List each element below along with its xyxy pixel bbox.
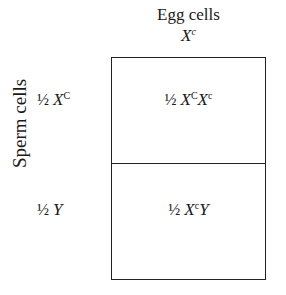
sperm-allele-1: ½ XC [37,90,70,110]
egg-allele: Xc [111,25,266,46]
cell-offspring-2: ½ XcY [111,200,266,220]
sperm-allele-2: ½ Y [37,200,62,220]
sperm-cells-label: Sperm cells [9,79,31,168]
cell-offspring-1: ½ XCXc [111,90,266,110]
egg-cells-label: Egg cells [111,5,266,25]
row-divider [112,163,265,164]
